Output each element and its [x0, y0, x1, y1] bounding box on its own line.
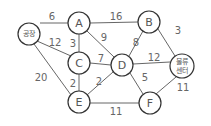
weight-c-e: 2: [70, 78, 76, 89]
weight-d-center: 12: [148, 52, 161, 63]
weight-b-d: 8: [133, 37, 139, 48]
node-logistics-center-label-line2: 센터: [176, 66, 188, 75]
node-f: F: [139, 92, 161, 114]
weight-a-d: 9: [101, 32, 107, 43]
node-d: D: [111, 54, 133, 76]
edge-factory-e: [34, 44, 71, 95]
node-logistics-center: 물류 센터: [170, 54, 194, 78]
weight-factory-a: 6: [49, 11, 55, 22]
node-b: B: [138, 11, 160, 33]
weight-a-c: 3: [70, 38, 76, 49]
node-c: C: [68, 52, 90, 74]
weight-b-center: 3: [175, 25, 181, 36]
weight-f-center: 11: [177, 82, 190, 93]
weight-factory-c: 12: [49, 37, 62, 48]
weight-a-b: 16: [110, 11, 123, 22]
node-e-label: E: [76, 96, 83, 109]
weight-d-f: 5: [142, 72, 148, 83]
node-a: A: [68, 12, 90, 34]
node-factory: 공장: [18, 23, 40, 45]
graph-diagram: 6 12 20 16 3 9 8 3 7 2 2 12 5 11 11 공장 A…: [0, 0, 211, 126]
node-factory-label: 공장: [23, 29, 36, 38]
weight-c-d: 7: [98, 53, 104, 64]
weight-e-f: 11: [110, 106, 123, 117]
node-e: E: [68, 91, 90, 113]
weight-factory-e: 20: [35, 72, 48, 83]
node-f-label: F: [147, 97, 153, 110]
weight-d-e: 2: [96, 76, 102, 87]
node-a-label: A: [75, 17, 83, 30]
node-d-label: D: [118, 59, 126, 72]
edge-b-center: [158, 29, 175, 56]
edge-a-b: [90, 22, 138, 23]
node-logistics-center-label-line1: 물류: [176, 58, 189, 66]
edge-f-center: [156, 77, 176, 94]
node-c-label: C: [75, 57, 83, 70]
node-b-label: B: [145, 16, 153, 29]
